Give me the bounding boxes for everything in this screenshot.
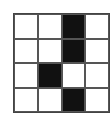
empty-cell <box>14 39 38 64</box>
filled-cell <box>62 14 86 39</box>
empty-cell <box>14 88 38 113</box>
empty-cell <box>85 88 109 113</box>
empty-cell <box>14 63 38 88</box>
filled-cell <box>62 39 86 64</box>
empty-cell <box>85 63 109 88</box>
empty-cell <box>38 39 62 64</box>
empty-cell <box>85 14 109 39</box>
empty-cell <box>85 39 109 64</box>
filled-cell <box>62 88 86 113</box>
binary-grid <box>13 13 110 113</box>
empty-cell <box>62 63 86 88</box>
empty-cell <box>38 14 62 39</box>
empty-cell <box>14 14 38 39</box>
filled-cell <box>38 63 62 88</box>
empty-cell <box>38 88 62 113</box>
